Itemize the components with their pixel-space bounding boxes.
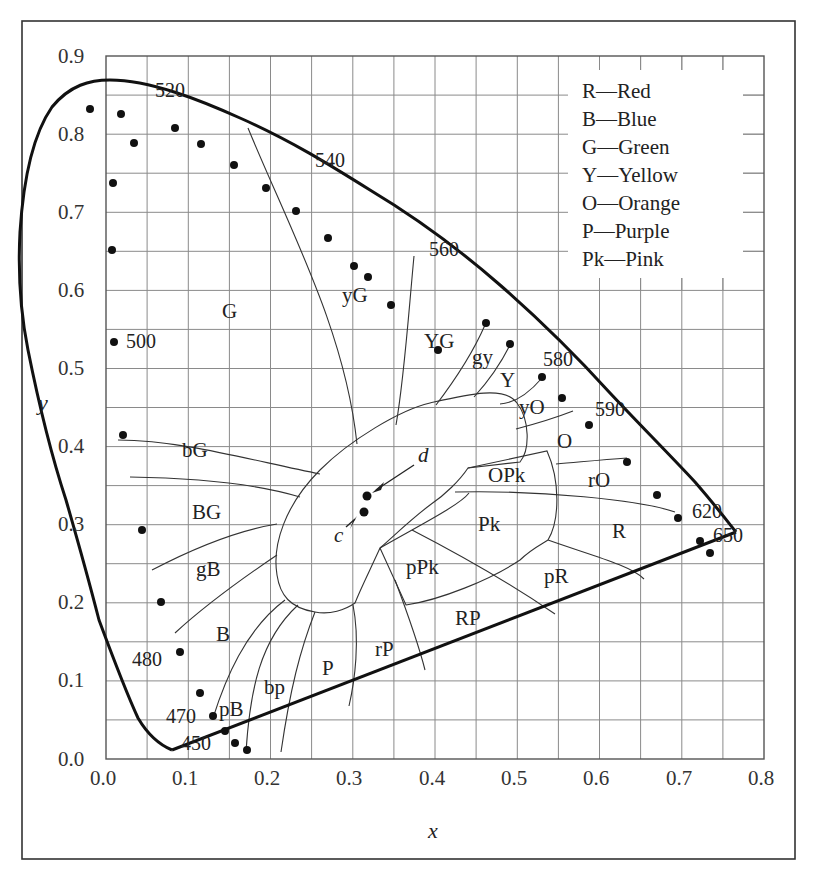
svg-text:gy: gy	[472, 345, 494, 369]
svg-text:c: c	[334, 523, 344, 547]
svg-text:pR: pR	[544, 564, 569, 588]
svg-text:0.8: 0.8	[748, 766, 774, 790]
x-axis-label: x	[427, 818, 438, 843]
svg-text:pPk: pPk	[406, 555, 439, 579]
svg-text:450: 450	[181, 732, 211, 754]
svg-text:rP: rP	[375, 637, 394, 661]
svg-text:0.1: 0.1	[58, 668, 84, 692]
svg-text:500: 500	[126, 330, 156, 352]
legend-item-pink: Pk—Pink	[582, 247, 664, 271]
svg-text:yG: yG	[342, 283, 368, 307]
x-tick-labels: 0.0 0.1 0.2 0.3 0.4 0.5 0.6 0.7 0.8	[90, 766, 774, 790]
svg-text:0.6: 0.6	[583, 766, 609, 790]
arrowhead-d-icon	[372, 482, 384, 493]
svg-text:560: 560	[429, 238, 459, 260]
svg-text:rO: rO	[588, 468, 610, 492]
svg-text:0.5: 0.5	[58, 356, 84, 380]
svg-text:d: d	[418, 443, 429, 467]
y-axis-label: y	[36, 390, 48, 415]
svg-text:0.3: 0.3	[336, 766, 362, 790]
legend-item-purple: P—Purple	[582, 219, 670, 243]
svg-text:G: G	[222, 299, 237, 323]
svg-text:590: 590	[595, 398, 625, 420]
svg-text:Y: Y	[500, 368, 515, 392]
svg-text:0.5: 0.5	[501, 766, 527, 790]
chromaticity-diagram: 0.0 0.1 0.2 0.3 0.4 0.5 0.6 0.7 0.8 0.9 …	[0, 0, 824, 877]
legend-item-yellow: Y—Yellow	[582, 163, 679, 187]
svg-text:bG: bG	[182, 438, 208, 462]
svg-text:O: O	[557, 429, 572, 453]
svg-text:0.4: 0.4	[419, 766, 446, 790]
points-cd	[346, 465, 414, 529]
svg-text:620: 620	[692, 500, 722, 522]
svg-text:470: 470	[166, 705, 196, 727]
svg-text:0.7: 0.7	[58, 200, 84, 224]
svg-text:650: 650	[713, 524, 743, 546]
legend-item-orange: O—Orange	[582, 191, 680, 215]
svg-text:P: P	[322, 656, 334, 680]
svg-text:YG: YG	[424, 329, 454, 353]
svg-text:540: 540	[315, 149, 345, 171]
svg-text:0.0: 0.0	[58, 747, 84, 771]
svg-text:580: 580	[543, 348, 573, 370]
svg-text:B: B	[216, 622, 230, 646]
svg-text:0.9: 0.9	[58, 44, 84, 68]
svg-text:bp: bp	[264, 675, 285, 699]
svg-text:0.2: 0.2	[254, 766, 280, 790]
svg-text:0.8: 0.8	[58, 122, 84, 146]
svg-text:0.7: 0.7	[666, 766, 692, 790]
svg-text:0.6: 0.6	[58, 278, 84, 302]
svg-text:pB: pB	[219, 697, 244, 721]
legend-item-green: G—Green	[582, 135, 670, 159]
svg-text:0.2: 0.2	[58, 590, 84, 614]
svg-text:0.1: 0.1	[172, 766, 198, 790]
svg-text:RP: RP	[455, 606, 481, 630]
svg-text:R: R	[612, 519, 626, 543]
point-c	[360, 508, 369, 517]
point-d	[363, 492, 372, 501]
svg-text:0.3: 0.3	[58, 512, 84, 536]
svg-text:0.0: 0.0	[90, 766, 116, 790]
svg-text:480: 480	[132, 648, 162, 670]
svg-text:OPk: OPk	[488, 463, 526, 487]
svg-text:gB: gB	[196, 557, 221, 581]
svg-text:Pk: Pk	[478, 512, 501, 536]
line-of-purples	[172, 532, 736, 750]
svg-text:BG: BG	[192, 500, 221, 524]
legend-item-blue: B—Blue	[582, 107, 657, 131]
svg-text:520: 520	[155, 79, 185, 101]
svg-text:yO: yO	[519, 395, 545, 419]
y-tick-labels: 0.0 0.1 0.2 0.3 0.4 0.5 0.6 0.7 0.8 0.9	[58, 44, 85, 771]
legend-item-red: R—Red	[582, 79, 651, 103]
svg-text:0.4: 0.4	[58, 434, 85, 458]
